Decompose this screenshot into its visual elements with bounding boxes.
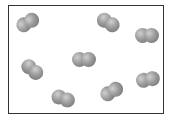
- diatomic-molecule: [135, 28, 159, 44]
- diatomic-molecule: [72, 52, 96, 68]
- atom: [144, 28, 159, 43]
- atom: [81, 52, 96, 67]
